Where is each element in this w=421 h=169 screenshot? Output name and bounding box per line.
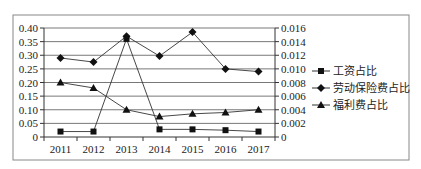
left-tick-label: 0.30 [19, 49, 39, 61]
x-tick-label: 2013 [116, 143, 139, 155]
x-tick-label: 2014 [149, 143, 172, 155]
legend-label: 工资占比 [333, 64, 377, 78]
left-tick-label: 0 [33, 131, 39, 143]
right-tick-label: 0.014 [281, 36, 306, 48]
right-tick-label: 0 [281, 131, 287, 143]
x-tick-label: 2015 [182, 143, 205, 155]
left-tick-label: 0.15 [19, 90, 39, 102]
left-tick-label: 0.20 [19, 77, 39, 89]
legend-label: 劳动保险费占比 [333, 81, 410, 95]
right-tick-label: 0.016 [281, 22, 306, 34]
left-tick-label: 0.35 [19, 36, 39, 48]
square-marker [318, 68, 324, 74]
x-tick-label: 2012 [83, 143, 105, 155]
right-tick-label: 0.008 [281, 77, 306, 89]
x-tick-label: 2017 [248, 143, 271, 155]
square-marker [58, 129, 64, 135]
left-tick-label: 0.40 [19, 22, 39, 34]
right-tick-label: 0.002 [281, 117, 306, 129]
square-marker [256, 129, 262, 135]
square-marker [91, 129, 97, 135]
line-chart: 00.050.100.150.200.250.300.350.40 00.002… [0, 0, 421, 169]
right-tick-label: 0.006 [281, 90, 306, 102]
legend-label: 福利费占比 [333, 98, 388, 112]
right-tick-label: 0.010 [281, 63, 306, 75]
x-tick-label: 2016 [215, 143, 238, 155]
left-tick-label: 0.05 [19, 117, 39, 129]
square-marker [157, 126, 163, 132]
right-tick-label: 0.004 [281, 104, 306, 116]
left-tick-label: 0.10 [19, 104, 39, 116]
left-tick-label: 0.25 [19, 63, 39, 75]
x-tick-label: 2011 [50, 143, 72, 155]
square-marker [223, 127, 229, 133]
square-marker [190, 126, 196, 132]
right-tick-label: 0.012 [281, 49, 306, 61]
